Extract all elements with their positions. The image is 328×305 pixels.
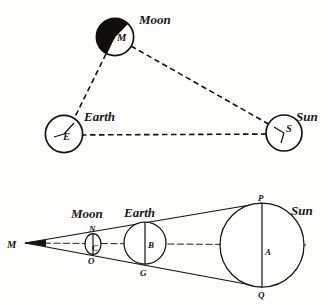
- earth-label: Earth: [83, 109, 115, 124]
- bottom-earth-body: B G: [124, 222, 166, 278]
- earth-center-letter: E: [62, 131, 70, 142]
- bottom-diagram: N C O Moon B G Earth P A Q Sun M: [0, 175, 328, 305]
- moon-center-letter: M: [116, 32, 127, 43]
- bottom-moon-top-letter: N: [88, 224, 96, 234]
- apex-wedge: [24, 240, 46, 247]
- moon-sun-line: [131, 46, 272, 126]
- bottom-earth-bottom-letter: G: [140, 268, 147, 278]
- earth-sun-line: [72, 134, 277, 135]
- bottom-sun-bottom-letter: Q: [258, 290, 265, 300]
- top-diagram: M Moon E Earth S Sun: [0, 0, 328, 180]
- sun-center-letter: S: [286, 123, 292, 134]
- bottom-earth-center-letter: B: [147, 240, 154, 250]
- figure-root: M Moon E Earth S Sun: [0, 0, 328, 305]
- bottom-moon-label: Moon: [70, 206, 103, 221]
- moon-label: Moon: [138, 12, 171, 27]
- bottom-sun-top-letter: P: [258, 193, 264, 203]
- sun-label: Sun: [296, 109, 318, 124]
- bottom-sun-label: Sun: [291, 203, 313, 218]
- moon-body: M: [81, 4, 134, 56]
- earth-body: E: [45, 115, 82, 152]
- bottom-moon-bottom-letter: O: [88, 256, 95, 266]
- bottom-moon-center-letter: C: [92, 243, 99, 253]
- bottom-sun-center-letter: A: [264, 247, 271, 257]
- bottom-earth-label: Earth: [123, 205, 155, 220]
- apex-label: M: [6, 239, 17, 250]
